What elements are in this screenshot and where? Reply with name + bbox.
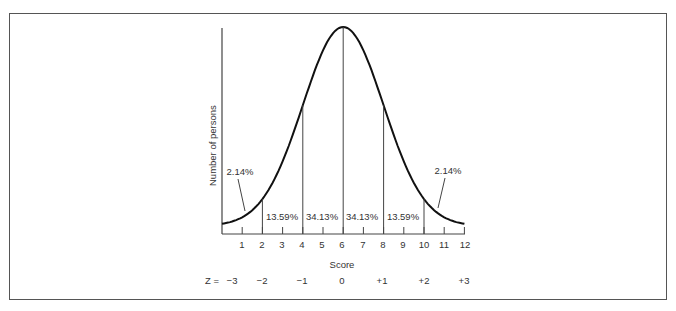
x-tick-labels: 1 2 3 4 5 6 7 8 9 10 11 12 [239,239,470,250]
region-boundaries [262,27,424,234]
tick-label: 10 [419,239,430,250]
tick-label: 9 [400,239,405,250]
tick-label: 12 [460,239,471,250]
left-tail-leader [238,179,245,211]
z-label: −2 [257,275,268,286]
z-label: +1 [377,275,388,286]
y-axis-label: Number of persons [207,105,218,186]
z-label: −1 [297,275,308,286]
z-label: 0 [339,275,344,286]
z-label: +2 [419,275,430,286]
tick-label: 3 [279,239,284,250]
right-tail-leader [438,178,445,208]
x-axis-label: Score [330,259,355,270]
tick-label: 5 [319,239,324,250]
z-label: −3 [227,275,238,286]
tick-label: 6 [339,239,344,250]
tick-label: 7 [360,239,365,250]
tick-label: 4 [299,239,304,250]
z-label: +3 [459,275,470,286]
pct-label: 34.13% [306,211,339,222]
normal-curve-chart: 1 2 3 4 5 6 7 8 9 10 11 12 13.59% 34.13%… [0,0,676,311]
z-prefix: Z = [205,275,219,286]
tick-label: 2 [259,239,264,250]
tick-label: 1 [239,239,244,250]
x-ticks [242,227,464,234]
pct-label: 34.13% [346,211,379,222]
pct-label-left-tail: 2.14% [227,166,254,177]
pct-label: 13.59% [266,211,299,222]
pct-label: 13.59% [387,211,420,222]
tick-label: 11 [439,239,449,250]
tick-label: 8 [380,239,385,250]
pct-label-right-tail: 2.14% [435,165,462,176]
z-scale: Z = −3 −2 −1 0 +1 +2 +3 [205,275,469,286]
region-percentages: 13.59% 34.13% 34.13% 13.59% 2.14% 2.14% [227,165,462,222]
